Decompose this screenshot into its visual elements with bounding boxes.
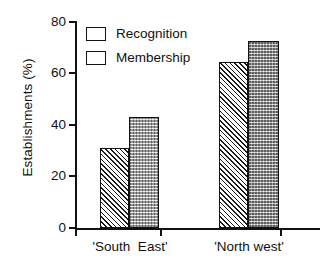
x-category-label-north-west: 'North west'	[197, 240, 301, 254]
y-tick-60	[69, 72, 76, 74]
y-tick-label-20: 20	[38, 169, 66, 183]
bar-chart: Establishments (%) 0 20 40 60 80 Recogni…	[0, 0, 325, 276]
y-tick-40	[69, 124, 76, 126]
bar-north-west-membership	[248, 41, 279, 228]
legend-item-membership: Membership	[86, 46, 190, 70]
x-axis-line	[75, 228, 320, 230]
legend-item-recognition: Recognition	[86, 22, 190, 46]
legend-label-recognition: Recognition	[116, 27, 187, 41]
x-tick-group-1-end	[160, 229, 162, 236]
bar-south-east-membership	[129, 117, 159, 228]
legend-swatch-membership-icon	[86, 51, 106, 65]
y-tick-label-60: 60	[38, 66, 66, 80]
legend-swatch-recognition-icon	[86, 27, 106, 41]
y-tick-20	[69, 175, 76, 177]
y-tick-label-80: 80	[38, 15, 66, 29]
y-axis-title: Establishments (%)	[20, 18, 35, 218]
bar-north-west-recognition	[219, 62, 248, 228]
bar-south-east-recognition	[100, 148, 129, 228]
y-tick-80	[69, 21, 76, 23]
legend: Recognition Membership	[86, 22, 190, 70]
x-category-label-south-east: 'South East'	[78, 240, 182, 254]
y-tick-label-40: 40	[38, 118, 66, 132]
x-tick-left-edge	[75, 229, 77, 236]
legend-label-membership: Membership	[116, 51, 190, 65]
y-tick-label-0: 0	[38, 221, 66, 235]
x-tick-group-2-end	[280, 229, 282, 236]
